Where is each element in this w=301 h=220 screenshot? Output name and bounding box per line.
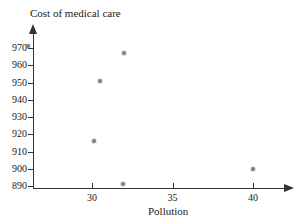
- data-point: [251, 167, 255, 171]
- data-point: [121, 182, 125, 186]
- plot-area: [0, 0, 301, 220]
- data-point: [92, 139, 96, 143]
- data-point: [26, 44, 30, 48]
- scatter-plot-figure: Cost of medical care 8909009109209309409…: [0, 0, 301, 220]
- x-axis-title: Pollution: [148, 205, 188, 217]
- data-point: [122, 51, 126, 55]
- data-point: [98, 79, 102, 83]
